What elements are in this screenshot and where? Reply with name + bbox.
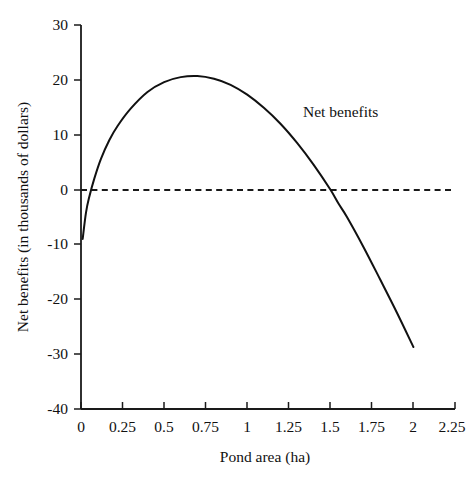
y-tick-label: 0: [60, 181, 68, 198]
y-axis-title: Net benefits (in thousands of dollars): [14, 102, 32, 332]
x-tick-label: 2.25: [438, 418, 465, 435]
y-tick-label: -40: [47, 400, 68, 417]
y-tick-label: -10: [47, 235, 68, 252]
x-tick-label: 0: [77, 418, 85, 435]
x-tick-label: 1.25: [275, 418, 302, 435]
x-tick-label: 0.25: [109, 418, 136, 435]
x-tick-label: 0.5: [154, 418, 174, 435]
x-tick-label: 1: [243, 418, 251, 435]
x-tick-label: 0.75: [192, 418, 219, 435]
y-tick-label: 30: [53, 16, 69, 33]
y-tick-label: 20: [53, 71, 69, 88]
x-axis-title: Pond area (ha): [220, 448, 310, 466]
y-tick-label: -30: [47, 345, 68, 362]
y-tick-label: 10: [53, 126, 69, 143]
net-benefits-annotation: Net benefits: [303, 103, 378, 120]
x-tick-label: 1.75: [358, 418, 385, 435]
x-tick-label: 2: [409, 418, 417, 435]
x-tick-label: 1.5: [320, 418, 340, 435]
chart-figure: 30 20 10 0 -10 -20 -30 -40 0 0.25 0.5: [0, 0, 473, 482]
net-benefits-line-chart: 30 20 10 0 -10 -20 -30 -40 0 0.25 0.5: [0, 0, 473, 482]
y-tick-label: -20: [47, 290, 68, 307]
